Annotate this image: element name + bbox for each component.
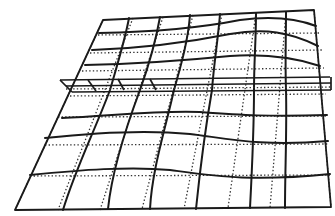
grid-frame: [15, 10, 331, 210]
deformed-grid-diagram: [0, 0, 335, 216]
grid-svg: [0, 0, 335, 216]
displaced-band: [60, 77, 331, 92]
reference-grid-vertical: [15, 10, 331, 210]
